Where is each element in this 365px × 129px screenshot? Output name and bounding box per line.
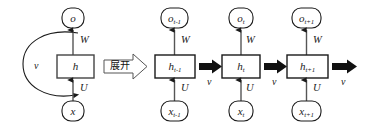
recurrent-arrow-0 — [199, 60, 222, 74]
diagram-vector-layer — [0, 0, 365, 129]
rnn-unfolding-diagram: o h x W U v 展开 ot-1 ht-1 xt-1 W U v ot h… — [0, 0, 365, 129]
folded-input-node — [62, 101, 84, 121]
timestep-2-input-node — [292, 101, 321, 121]
timestep-0-hidden-box — [155, 55, 195, 78]
recurrent-arrow-1 — [264, 60, 287, 74]
timestep-1-hidden-box — [222, 55, 260, 78]
timestep-2-output-node — [292, 8, 321, 28]
folded-hidden-box — [57, 55, 94, 78]
recurrent-arrow-2 — [332, 60, 357, 74]
timestep-0-output-node — [161, 8, 188, 28]
timestep-1-output-node — [229, 8, 253, 28]
timestep-0-input-node — [161, 101, 188, 121]
timestep-2-hidden-box — [287, 55, 328, 78]
folded-output-node — [62, 8, 84, 28]
unfold-block-arrow — [104, 54, 147, 79]
timestep-1-input-node — [229, 101, 253, 121]
